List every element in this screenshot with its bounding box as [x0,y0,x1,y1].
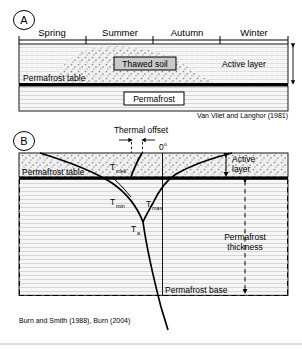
panel-b-active-layer-label-line1: Active [232,154,255,164]
season-label-summer: Summer [102,27,138,38]
panel-a-permafrost-label: Permafrost [133,94,175,104]
panel-a-letter-badge: A [14,11,35,30]
t-min-subscript: min [116,203,125,209]
permafrost-base-label: Permafrost base [165,285,228,295]
t-max-symbol: T [146,199,151,209]
panel-a-credit: Van Vliet and Langhor (1981) [197,112,288,120]
t-max-subscript: max [152,205,163,211]
t-a-symbol: T [131,224,136,234]
thawed-soil-label-box: Thawed soil [114,57,176,70]
panel-a-letter: A [20,14,28,26]
permafrost-thickness-label-line1: Permafrost [224,232,266,242]
panel-a-active-layer-label: Active layer [222,59,266,69]
zero-degree-label: 0° [159,142,167,152]
panel-b-letter-badge: B [14,132,35,151]
season-label-winter: Winter [240,27,267,38]
permafrost-thickness-label-line2: thickness [227,242,262,252]
panel-b-active-layer-label-line2: layer [232,164,251,174]
t-melt-symbol: T [110,162,115,172]
permafrost-label-box: Permafrost [124,92,184,105]
t-min-symbol: T [110,197,115,207]
panel-a: A Spring Summer Autumn Winter Permafrost… [14,11,294,121]
thermal-offset-label: Thermal offset [114,125,169,135]
panel-b-letter: B [20,135,27,147]
panel-b-credit: Burn and Smith (1988), Burn (2004) [19,317,130,325]
t-melt-subscript: melt [116,168,127,174]
season-label-spring: Spring [38,27,65,38]
panel-b-permafrost-table-label: Permafrost table [22,167,85,177]
panel-a-permafrost-table-label: Permafrost table [23,73,86,83]
panel-b: B Thermal offset 0° [14,125,289,330]
thawed-soil-label: Thawed soil [122,59,167,69]
permafrost-figure: A Spring Summer Autumn Winter Permafrost… [0,0,302,349]
season-label-autumn: Autumn [171,27,204,38]
